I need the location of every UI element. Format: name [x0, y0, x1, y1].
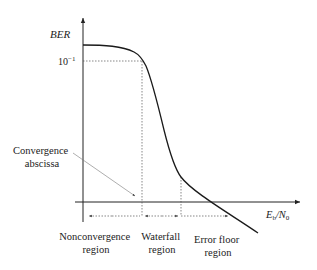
nonconvergence-region-label: Nonconvergence region: [59, 231, 133, 255]
x-axis-label: Eb/N0: [265, 209, 290, 222]
ber-diagram: BER 10−1 Eb/N0 Convergence abscissa Nonc…: [0, 0, 317, 270]
error-floor-region-label: Error floor region: [194, 234, 242, 258]
ber-tick-label: 10−1: [58, 55, 76, 67]
convergence-abscissa-label: Convergence abscissa: [13, 145, 71, 169]
ber-curve: [83, 45, 258, 233]
convergence-pointer: [73, 153, 135, 196]
y-axis-label: BER: [50, 28, 70, 40]
waterfall-region-label: Waterfall region: [141, 231, 182, 255]
